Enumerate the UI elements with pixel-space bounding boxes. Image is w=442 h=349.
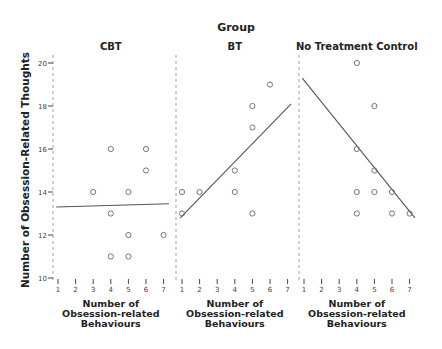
x-axis-label: Behaviours [81, 318, 141, 329]
x-tick-label: 2 [73, 286, 77, 294]
x-tick-label: 5 [126, 286, 130, 294]
fit-line [180, 104, 291, 218]
data-point [267, 82, 272, 87]
panel-no-treatment-control: No Treatment Control1234567Number ofObse… [296, 41, 418, 329]
y-tick-label: 14 [38, 189, 47, 197]
x-tick-label: 7 [407, 286, 411, 294]
data-point [250, 211, 255, 216]
x-tick-label: 1 [56, 286, 60, 294]
x-tick-label: 5 [372, 286, 376, 294]
data-point [126, 232, 131, 237]
data-point [143, 168, 148, 173]
data-point [108, 146, 113, 151]
x-tick-label: 3 [215, 286, 219, 294]
data-point [161, 232, 166, 237]
data-point [108, 254, 113, 259]
data-point [354, 189, 359, 194]
panel-title: CBT [100, 41, 122, 52]
panels: CBT1234567Number ofObsession-relatedBeha… [53, 41, 418, 329]
data-point [389, 211, 394, 216]
y-tick-label: 12 [38, 232, 47, 240]
x-tick-label: 2 [197, 286, 201, 294]
panel-bt: BT1234567Number ofObsession-relatedBehav… [176, 41, 291, 329]
y-tick-label: 18 [38, 103, 47, 111]
x-tick-label: 6 [144, 286, 149, 294]
data-point [197, 189, 202, 194]
y-tick-label: 10 [38, 275, 47, 283]
fit-line [56, 204, 169, 207]
panel-title: No Treatment Control [296, 41, 418, 52]
chart-title: Group [217, 21, 255, 34]
fit-line [302, 78, 415, 218]
data-point [126, 189, 131, 194]
data-point [250, 103, 255, 108]
panel-cbt: CBT1234567Number ofObsession-relatedBeha… [53, 41, 169, 329]
x-tick-label: 1 [302, 286, 306, 294]
data-point [126, 254, 131, 259]
data-point [372, 189, 377, 194]
data-point [143, 146, 148, 151]
x-tick-label: 4 [355, 286, 360, 294]
data-point [354, 60, 359, 65]
y-axis-label: Number of Obsession-Related Thoughts [19, 52, 31, 288]
y-tick-label: 20 [38, 60, 47, 68]
x-tick-label: 7 [285, 286, 289, 294]
data-point [354, 146, 359, 151]
x-axis-label: Behaviours [327, 318, 387, 329]
panel-title: BT [228, 41, 243, 52]
data-point [179, 189, 184, 194]
data-point [108, 211, 113, 216]
y-axis: 101214161820 [38, 60, 53, 283]
data-point [232, 168, 237, 173]
x-tick-label: 3 [91, 286, 95, 294]
data-point [250, 125, 255, 130]
x-tick-label: 4 [109, 286, 114, 294]
data-point [232, 189, 237, 194]
x-tick-label: 2 [319, 286, 323, 294]
x-tick-label: 6 [390, 286, 395, 294]
y-tick-label: 16 [38, 146, 47, 154]
data-point [91, 189, 96, 194]
x-tick-label: 5 [250, 286, 254, 294]
data-point [354, 211, 359, 216]
x-tick-label: 3 [337, 286, 341, 294]
x-tick-label: 6 [268, 286, 273, 294]
x-axis-label: Behaviours [205, 318, 265, 329]
scatter-chart: Group Number of Obsession-Related Though… [0, 0, 442, 349]
x-tick-label: 4 [233, 286, 238, 294]
data-point [372, 103, 377, 108]
x-tick-label: 7 [161, 286, 165, 294]
x-tick-label: 1 [180, 286, 184, 294]
